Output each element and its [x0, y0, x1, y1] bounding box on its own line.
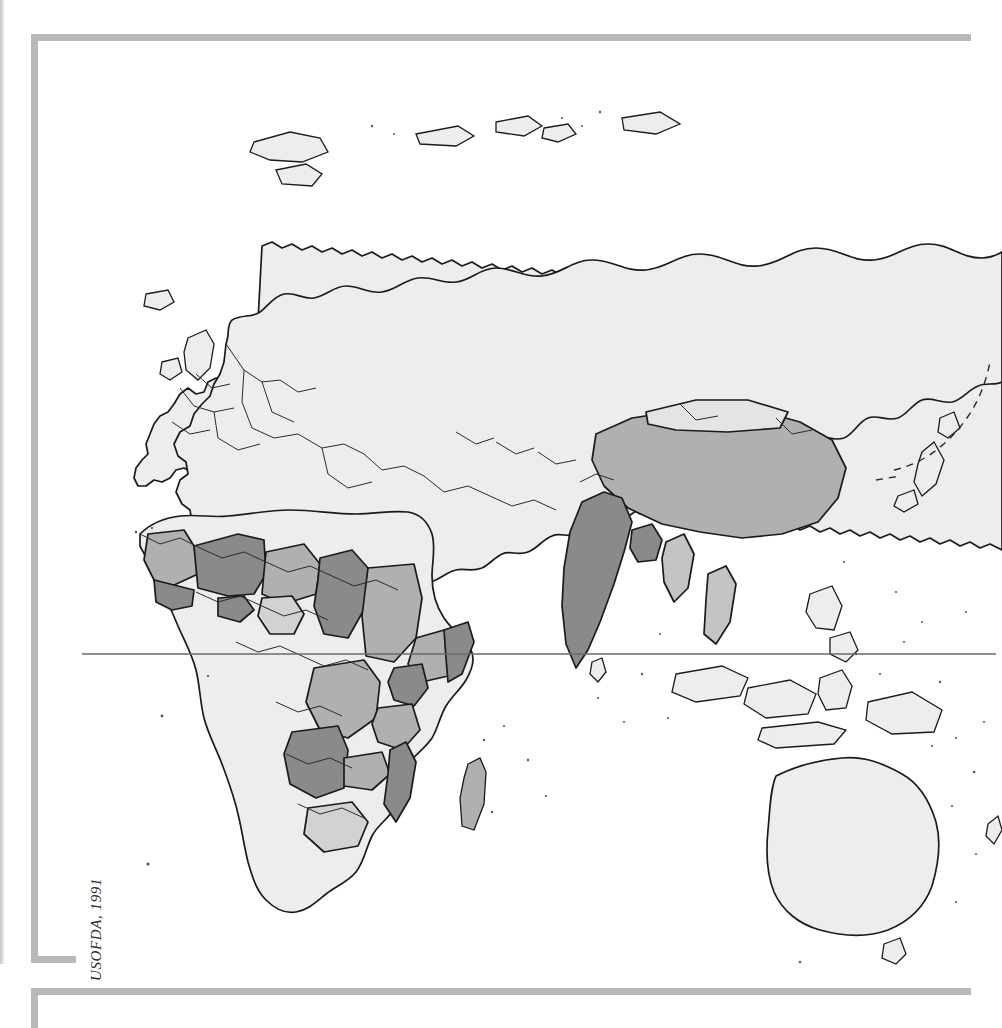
- figure-frame: .ln{fill:none;stroke:#1a1a1a;stroke-widt…: [31, 34, 971, 963]
- page-left-edge-rule: [0, 0, 4, 964]
- country-mali: [194, 534, 266, 596]
- source-credit-label: USOFDA, 1991: [88, 878, 105, 981]
- country-mauritania: [144, 530, 198, 586]
- map-canvas: .ln{fill:none;stroke:#1a1a1a;stroke-widt…: [76, 82, 1002, 997]
- continent-australia: [767, 758, 939, 936]
- country-niger: [262, 544, 320, 604]
- world-map-graphic: .ln{fill:none;stroke:#1a1a1a;stroke-widt…: [76, 82, 1002, 997]
- next-figure-frame-partial: [31, 988, 971, 1028]
